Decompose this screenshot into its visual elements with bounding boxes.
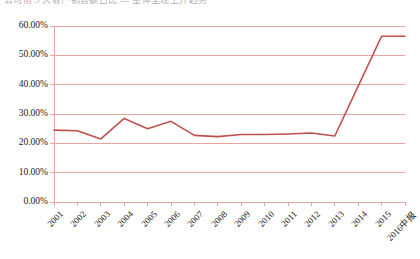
y-axis-tick-label: 50.00% xyxy=(2,49,48,59)
y-axis-tick-label: 40.00% xyxy=(2,79,48,89)
x-axis-ticks xyxy=(54,202,405,206)
y-axis-tick-label: 10.00% xyxy=(2,167,48,177)
data-line-series-1 xyxy=(54,36,405,139)
gridlines xyxy=(54,26,405,202)
y-axis-tick-label: 0.00% xyxy=(2,196,48,206)
y-axis-tick-label: 60.00% xyxy=(2,20,48,30)
y-axis-tick-label: 30.00% xyxy=(2,108,48,118)
y-axis-tick-label: 20.00% xyxy=(2,137,48,147)
chart-container: 公司前 5 大客户销售额占比 — 整体呈现上升趋势 0.00%10.00%20.… xyxy=(0,0,420,259)
y-axis-ticks xyxy=(50,26,54,202)
